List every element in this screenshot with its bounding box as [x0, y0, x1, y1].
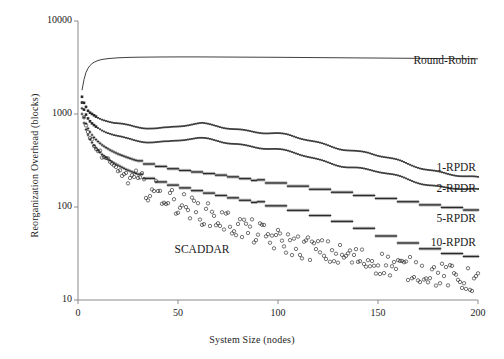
series-label-round-robin: Round-Robin [413, 54, 476, 66]
y-tick-label-10000: 10000 [16, 14, 72, 25]
series-label-10-rpdr: 10-RPDR [431, 236, 476, 248]
series-10-rpdr [81, 112, 480, 258]
x-tick-label-0: 0 [48, 307, 108, 318]
series-label-2-rpdr: 2-RPDR [436, 182, 476, 194]
series-label-scaddar: SCADDAR [175, 243, 230, 255]
x-axis-title: System Size (nodes) [0, 334, 504, 345]
series-1-rpdr [81, 95, 479, 177]
series-2-rpdr [81, 101, 479, 190]
series-label-5-rpdr: 5-RPDR [436, 212, 476, 224]
series-label-1-rpdr: 1-RPDR [436, 161, 476, 173]
y-axis-title: Reorganization Overhead (blocks) [29, 56, 40, 276]
chart-figure: Reorganization Overhead (blocks) System … [0, 0, 504, 359]
data-series-group [81, 57, 480, 293]
y-tick-label-100: 100 [16, 200, 72, 211]
x-tick-label-200: 200 [448, 307, 504, 318]
series-5-rpdr [81, 107, 480, 212]
y-tick-label-10: 10 [16, 293, 72, 304]
x-tick-label-50: 50 [148, 307, 208, 318]
y-tick-label-1000: 1000 [16, 107, 72, 118]
x-tick-label-100: 100 [248, 307, 308, 318]
x-tick-label-150: 150 [348, 307, 408, 318]
